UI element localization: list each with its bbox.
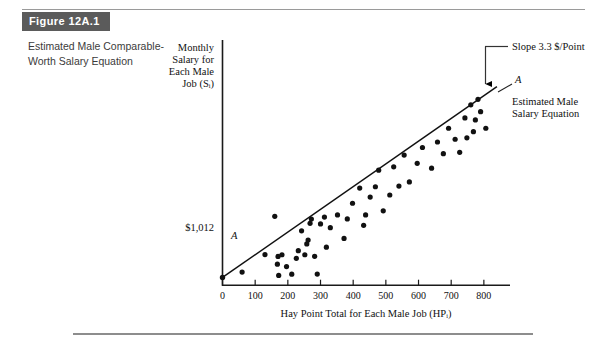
scatter-point [272,214,277,219]
x-tick-label: 500 [378,290,393,301]
line-label-leader [498,84,512,92]
scatter-plot-svg: 0100200300400500600700800 Monthly Salary… [0,0,606,343]
scatter-point [276,273,281,278]
line-caption-line-2: Salary Equation [512,108,580,119]
scatter-point [483,126,488,131]
x-axis-ticks [223,280,484,286]
scatter-point [396,183,401,188]
scatter-point [435,139,440,144]
x-tick-label: 400 [346,290,361,301]
scatter-point [446,126,451,131]
scatter-point [328,225,333,230]
scatter-point [345,216,350,221]
scatter-point [312,254,317,259]
x-tick-label: 100 [248,290,263,301]
scatter-point [471,129,476,134]
scatter-point [462,115,467,120]
scatter-point [350,201,355,206]
scatter-point [296,248,301,253]
scatter-point [318,221,323,226]
scatter-point [457,150,462,155]
scatter-point [407,179,412,184]
scatter-point [453,137,458,142]
slope-annotation-leader [485,47,508,85]
scatter-point [302,252,307,257]
scatter-point [381,208,386,213]
line-label-left: A [230,230,238,241]
line-caption-line-1: Estimated Male [512,96,579,107]
x-tick-label: 600 [411,290,426,301]
line-caption: Estimated Male Salary Equation [512,96,580,119]
scatter-point [275,262,280,267]
y-axis-label-line-3: Each Male [169,66,215,77]
scatter-point [441,151,446,156]
scatter-point [315,271,320,276]
x-tick-label: 300 [313,290,328,301]
y-axis-label-line-2: Salary for [172,54,214,65]
scatter-point [361,223,366,228]
scatter-point [420,145,425,150]
axis-lines [222,40,510,286]
y-axis-label: Monthly Salary for Each Male Job (Sᵢ) [169,42,215,90]
scatter-point [305,238,310,243]
scatter-point [289,272,294,277]
scatter-point [335,212,340,217]
bottom-divider [73,333,533,335]
scatter-point [341,236,346,241]
scatter-points-group [240,97,489,278]
scatter-point [324,245,329,250]
scatter-point [363,212,368,217]
scatter-point [322,214,327,219]
scatter-point [464,135,469,140]
scatter-point [279,252,284,257]
scatter-point [429,166,434,171]
chart-area: 0100200300400500600700800 Monthly Salary… [0,0,606,343]
scatter-point [240,270,245,275]
scatter-point [473,117,478,122]
scatter-point [387,192,392,197]
regression-line [223,87,497,278]
scatter-point [284,264,289,269]
scatter-point [415,161,420,166]
scatter-point [294,256,299,261]
slope-annotation-text: Slope 3.3 $/Point [512,41,585,52]
figure-page: Figure 12A.1 Estimated Male Comparable-W… [0,0,606,343]
x-tick-label: 200 [280,290,295,301]
x-tick-label: 0 [220,290,225,301]
y-intercept-label: $1,012 [185,222,214,233]
scatter-point [357,186,362,191]
x-axis-label: Hay Point Total for Each Male Job (HPᵢ) [281,308,452,320]
scatter-point [373,184,378,189]
scatter-point [299,228,304,233]
x-tick-label: 800 [476,290,491,301]
scatter-point [262,252,267,257]
line-label-right: A [514,74,522,85]
x-tick-label: 700 [444,290,459,301]
intercept-marker [220,275,225,280]
scatter-point [478,109,483,114]
scatter-point [391,164,396,169]
scatter-point [368,194,373,199]
y-axis-label-line-1: Monthly [178,42,215,53]
x-axis-tick-labels: 0100200300400500600700800 [220,290,491,301]
y-axis-label-line-4: Job (Sᵢ) [182,78,214,90]
